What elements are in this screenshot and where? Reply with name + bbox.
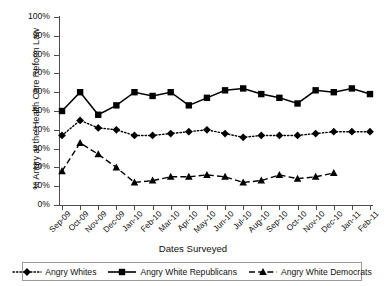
series-angry-whites <box>58 117 374 142</box>
legend-label: Angry White Democrats <box>281 267 372 277</box>
data-point-marker <box>149 132 157 140</box>
data-point-marker <box>167 130 175 138</box>
x-axis-title: Dates Surveyed <box>0 243 386 254</box>
legend-key-triangle-icon <box>248 267 278 277</box>
data-point-marker <box>331 89 337 95</box>
series-angry-white-democrats <box>58 139 337 185</box>
series-line <box>62 120 370 137</box>
data-point-marker <box>367 91 373 97</box>
legend-key-square-icon <box>107 267 137 277</box>
data-point-marker <box>312 130 320 138</box>
data-point-marker <box>276 132 284 140</box>
series-line <box>62 88 370 114</box>
data-point-marker <box>257 132 265 140</box>
chart-legend: Angry WhitesAngry White RepublicansAngry… <box>22 262 362 281</box>
data-point-marker <box>203 171 211 178</box>
data-point-marker <box>222 87 228 93</box>
data-point-marker <box>294 100 300 106</box>
data-point-marker <box>276 95 282 101</box>
data-point-marker <box>168 89 174 95</box>
data-point-marker <box>204 95 210 101</box>
data-point-marker <box>203 126 211 134</box>
data-point-marker <box>76 139 84 146</box>
legend-label: Angry White Republicans <box>140 267 237 277</box>
data-point-marker <box>240 85 246 91</box>
data-point-marker <box>312 87 318 93</box>
data-point-marker <box>349 85 355 91</box>
series-line <box>62 143 334 182</box>
data-point-marker <box>149 93 155 99</box>
data-point-marker <box>185 128 193 136</box>
data-point-marker <box>276 171 284 178</box>
legend-label: Angry Whites <box>45 267 96 277</box>
data-point-marker <box>94 124 102 132</box>
data-point-marker <box>113 102 119 108</box>
data-point-marker <box>131 89 137 95</box>
data-point-marker <box>112 126 120 134</box>
legend-key-diamond-icon <box>12 267 42 277</box>
data-point-marker <box>239 133 247 141</box>
data-point-marker <box>294 132 302 140</box>
data-point-marker <box>330 128 338 136</box>
data-point-marker <box>221 130 229 138</box>
data-point-marker <box>366 128 374 136</box>
data-point-marker <box>94 150 102 157</box>
legend-item-angry-white-democrats[interactable]: Angry White Democrats <box>248 267 372 277</box>
data-point-marker <box>95 112 101 118</box>
data-point-marker <box>330 169 338 176</box>
series-angry-white-republicans <box>59 85 373 118</box>
legend-item-angry-whites[interactable]: Angry Whites <box>12 267 96 277</box>
data-point-marker <box>59 108 65 114</box>
chart-root: % Angry at the Health Care Reform Law 10… <box>0 0 386 286</box>
data-point-marker <box>348 128 356 136</box>
data-point-marker <box>131 132 139 140</box>
data-point-marker <box>113 163 121 170</box>
legend-item-angry-white-republicans[interactable]: Angry White Republicans <box>107 267 237 277</box>
data-point-marker <box>258 91 264 97</box>
data-point-marker <box>186 102 192 108</box>
data-point-marker <box>76 117 84 125</box>
data-point-marker <box>77 89 83 95</box>
